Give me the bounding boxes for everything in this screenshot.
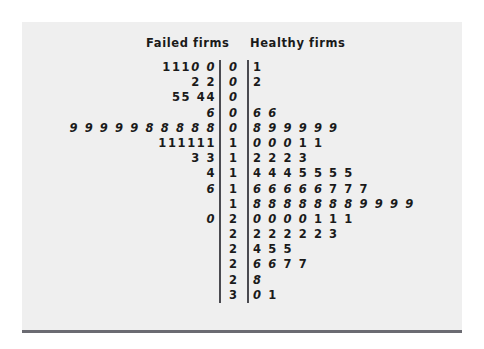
stem-value: 0 bbox=[221, 75, 245, 90]
stem-value: 2 bbox=[221, 227, 245, 242]
leaves-healthy-firms: 8 bbox=[253, 273, 263, 288]
stem-value: 1 bbox=[221, 151, 245, 166]
leaves-healthy-firms: 6 6 7 7 bbox=[253, 257, 308, 272]
stem-value: 0 bbox=[221, 106, 245, 121]
stem-and-leaf-plot: 1110 0012 20255 440606 69 9 9 9 9 8 8 8 … bbox=[22, 60, 462, 303]
stem-leaf-row: 24 5 5 bbox=[22, 242, 462, 257]
column-header-healthy-firms: Healthy firms bbox=[250, 36, 346, 50]
stem-leaf-row: 26 6 7 7 bbox=[22, 257, 462, 272]
stem-value: 0 bbox=[221, 90, 245, 105]
stem-value: 2 bbox=[221, 242, 245, 257]
stem-leaf-row: 1110 001 bbox=[22, 60, 462, 75]
leaves-failed-firms: 3 3 bbox=[191, 151, 216, 166]
stem-value: 2 bbox=[221, 257, 245, 272]
stem-leaf-row: 30 1 bbox=[22, 288, 462, 303]
column-header-failed-firms: Failed firms bbox=[146, 36, 230, 50]
leaves-failed-firms: 6 bbox=[206, 182, 216, 197]
stem-leaf-row: 9 9 9 9 9 8 8 8 8 808 9 9 9 9 9 bbox=[22, 121, 462, 136]
stem-leaf-row: 11111110 0 0 1 1 bbox=[22, 136, 462, 151]
stem-leaf-row: 616 6 6 6 6 7 7 7 bbox=[22, 182, 462, 197]
leaves-healthy-firms: 2 2 2 2 2 3 bbox=[253, 227, 339, 242]
stem-leaf-row: 18 8 8 8 8 8 8 9 9 9 9 bbox=[22, 197, 462, 212]
leaves-failed-firms: 9 9 9 9 9 8 8 8 8 8 bbox=[69, 121, 216, 136]
stem-value: 1 bbox=[221, 166, 245, 181]
stem-leaf-row: 2 202 bbox=[22, 75, 462, 90]
stem-leaf-row: 55 440 bbox=[22, 90, 462, 105]
stem-value: 1 bbox=[221, 136, 245, 151]
leaves-healthy-firms: 6 6 6 6 6 7 7 7 bbox=[253, 182, 369, 197]
leaves-healthy-firms: 8 9 9 9 9 9 bbox=[253, 121, 339, 136]
stem-value: 1 bbox=[221, 182, 245, 197]
leaves-healthy-firms: 4 5 5 bbox=[253, 242, 293, 257]
stem-value: 2 bbox=[221, 212, 245, 227]
bottom-rule bbox=[22, 330, 462, 333]
stem-leaf-row: 020 0 0 0 1 1 1 bbox=[22, 212, 462, 227]
column-headers: Failed firms Healthy firms bbox=[22, 36, 462, 56]
leaves-failed-firms: 6 bbox=[206, 106, 216, 121]
leaves-failed-firms: 1110 0 bbox=[162, 60, 216, 75]
leaves-healthy-firms: 0 0 0 0 1 1 1 bbox=[253, 212, 354, 227]
stem-leaf-row: 3 312 2 2 3 bbox=[22, 151, 462, 166]
leaves-failed-firms: 55 44 bbox=[172, 90, 216, 105]
leaves-healthy-firms: 0 0 0 1 1 bbox=[253, 136, 323, 151]
stem-leaf-row: 22 2 2 2 2 3 bbox=[22, 227, 462, 242]
stem-value: 2 bbox=[221, 273, 245, 288]
figure-panel: Failed firms Healthy firms 1110 0012 202… bbox=[22, 22, 462, 331]
stem-leaf-row: 28 bbox=[22, 273, 462, 288]
stem-value: 3 bbox=[221, 288, 245, 303]
stem-leaf-row: 606 6 bbox=[22, 106, 462, 121]
stem-value: 0 bbox=[221, 121, 245, 136]
stem-value: 1 bbox=[221, 197, 245, 212]
leaves-healthy-firms: 0 1 bbox=[253, 288, 278, 303]
leaves-healthy-firms: 6 6 bbox=[253, 106, 278, 121]
leaves-failed-firms: 111111 bbox=[158, 136, 216, 151]
leaves-healthy-firms: 4 4 4 5 5 5 5 bbox=[253, 166, 354, 181]
leaves-healthy-firms: 2 bbox=[253, 75, 263, 90]
leaves-failed-firms: 4 bbox=[206, 166, 216, 181]
leaves-healthy-firms: 2 2 2 3 bbox=[253, 151, 308, 166]
leaves-healthy-firms: 1 bbox=[253, 60, 263, 75]
leaves-failed-firms: 2 2 bbox=[191, 75, 216, 90]
leaves-healthy-firms: 8 8 8 8 8 8 8 9 9 9 9 bbox=[253, 197, 415, 212]
stem-leaf-row: 414 4 4 5 5 5 5 bbox=[22, 166, 462, 181]
stem-value: 0 bbox=[221, 60, 245, 75]
leaves-failed-firms: 0 bbox=[206, 212, 216, 227]
